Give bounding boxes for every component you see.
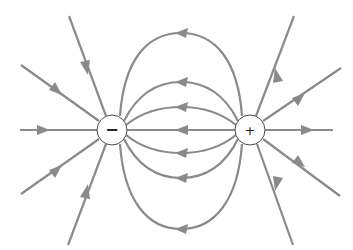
arrow-icon	[80, 60, 90, 75]
arrow-icon	[175, 28, 188, 38]
outgoing-field-lines	[256, 16, 341, 245]
arrow-icon	[49, 82, 62, 95]
arrow-icon	[292, 93, 305, 106]
field-line-bottom-outer	[120, 144, 242, 229]
outgoing-line-upper-steep	[256, 16, 294, 116]
arrow-icon	[80, 184, 90, 199]
arrow-icon	[175, 224, 188, 234]
arrow-icon	[301, 125, 314, 135]
field-line-top-outer	[120, 33, 242, 116]
arrow-icon	[175, 125, 188, 135]
arrow-icon	[273, 176, 283, 191]
arrow-icon	[175, 102, 188, 112]
arrow-icon	[175, 148, 188, 158]
outgoing-line-lower-steep	[257, 144, 293, 245]
minus-sign-icon: −	[105, 120, 118, 139]
dipole-field-diagram: − +	[0, 0, 353, 250]
arrow-icon	[175, 173, 188, 183]
positive-charge: +	[235, 115, 265, 145]
plus-sign-icon: +	[245, 123, 256, 138]
connecting-field-lines	[120, 28, 242, 234]
arrow-icon	[49, 165, 62, 178]
field-line-bottom-inner	[126, 135, 236, 153]
negative-charge: −	[97, 115, 127, 145]
arrow-icon	[37, 125, 50, 135]
arrow-icon	[175, 77, 188, 87]
incoming-field-lines	[20, 16, 106, 245]
